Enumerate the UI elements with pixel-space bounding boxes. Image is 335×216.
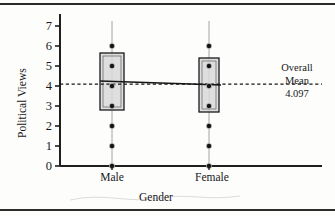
data-point-female-2[interactable] bbox=[206, 123, 211, 128]
data-point-female-5[interactable] bbox=[206, 63, 211, 68]
data-point-male-6[interactable] bbox=[109, 43, 114, 48]
ytick-label-6: 6 bbox=[38, 40, 52, 53]
ytick-label-7: 7 bbox=[38, 20, 52, 33]
xtick-label-female: Female bbox=[188, 172, 236, 184]
ytick-label-3: 3 bbox=[38, 100, 52, 113]
data-point-female-6[interactable] bbox=[206, 43, 211, 48]
data-point-female-3[interactable] bbox=[206, 103, 211, 108]
xtick-label-male: Male bbox=[92, 172, 132, 184]
x-axis-title: Gender bbox=[139, 192, 173, 204]
overall-mean-value: 4.097 bbox=[264, 88, 330, 101]
ytick-label-2: 2 bbox=[38, 120, 52, 133]
ytick-label-5: 5 bbox=[38, 60, 52, 73]
data-point-male-2[interactable] bbox=[109, 123, 114, 128]
ytick-label-1: 1 bbox=[38, 140, 52, 153]
figure-container: 7 6 5 4 3 2 1 0 Male Female Gender Polit… bbox=[0, 0, 335, 216]
ytick-label-4: 4 bbox=[38, 80, 52, 93]
data-point-male-3[interactable] bbox=[109, 103, 114, 108]
overall-mean-line1: Overall bbox=[264, 62, 330, 75]
data-point-male-5[interactable] bbox=[109, 63, 114, 68]
data-point-female-4[interactable] bbox=[206, 83, 211, 88]
data-point-female-1[interactable] bbox=[206, 143, 211, 148]
y-axis-title: Political Views bbox=[16, 68, 28, 138]
ytick-label-0: 0 bbox=[38, 160, 52, 173]
data-point-male-1[interactable] bbox=[109, 143, 114, 148]
data-point-male-4[interactable] bbox=[109, 83, 114, 88]
overall-mean-annotation: Overall Mean 4.097 bbox=[264, 62, 330, 100]
overall-mean-line2: Mean bbox=[264, 75, 330, 88]
